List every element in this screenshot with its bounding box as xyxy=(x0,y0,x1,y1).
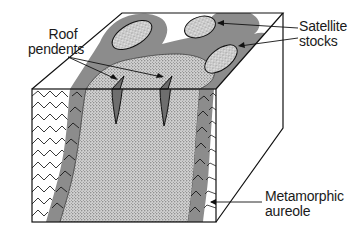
label-roof-pendents: Roof pendents xyxy=(30,27,96,57)
label-satellite-stocks: Satellite stocks xyxy=(299,19,347,49)
label-roof-pendents-line2: pendents xyxy=(16,42,96,57)
block-diagram: Roof pendents Satellite stocks Metamorph… xyxy=(0,0,360,236)
label-metamorphic-aureole-line2: aureole xyxy=(265,204,344,219)
label-roof-pendents-line1: Roof xyxy=(30,27,96,42)
label-satellite-stocks-line2: stocks xyxy=(299,34,347,49)
label-metamorphic-aureole-line1: Metamorphic xyxy=(265,189,344,204)
label-metamorphic-aureole: Metamorphic aureole xyxy=(265,189,344,219)
front-face xyxy=(32,76,216,222)
label-satellite-stocks-line1: Satellite xyxy=(299,19,347,34)
